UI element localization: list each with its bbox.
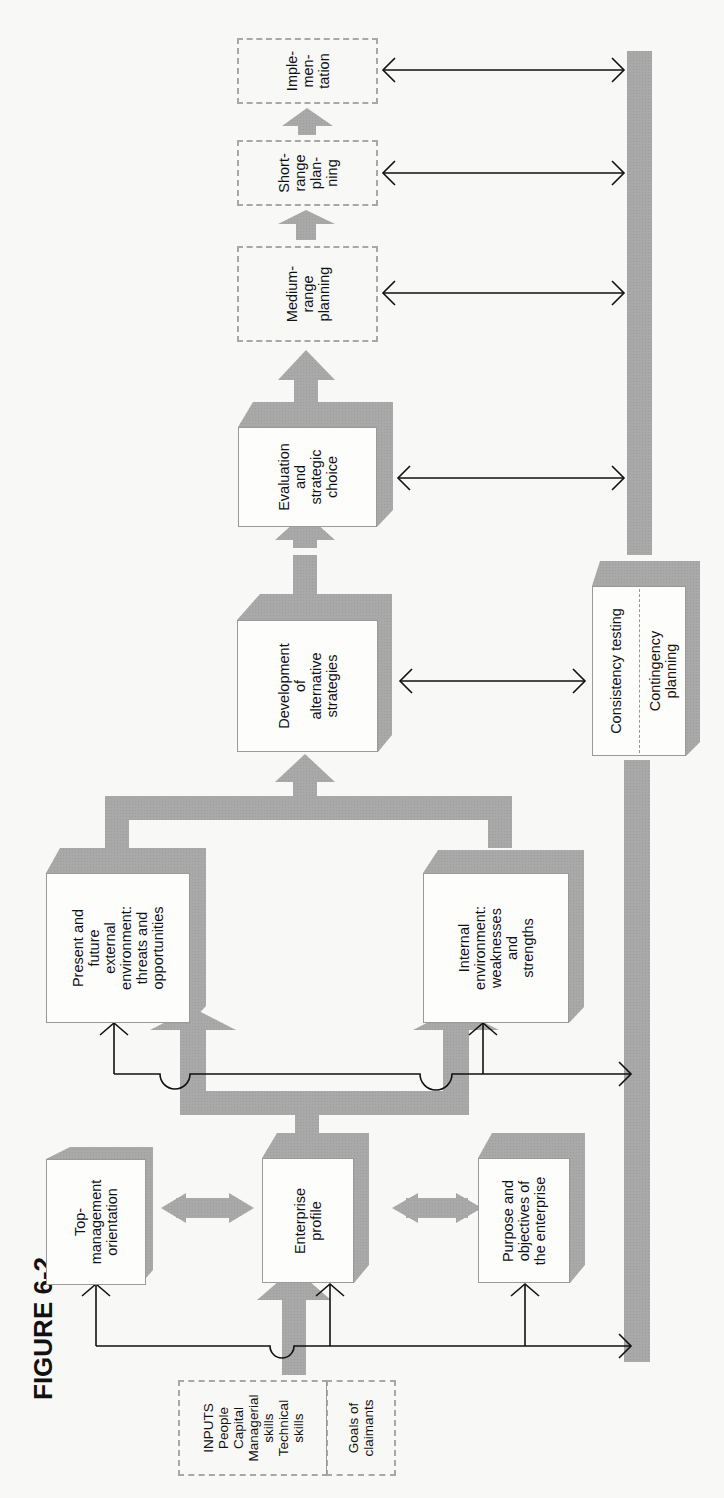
inputs-resources-label: INPUTS People Capital Managerial skills … — [201, 1395, 306, 1462]
node-label: Present and future external environment:… — [70, 906, 166, 990]
node-alternative-strategies: Development of alternative strategies — [237, 620, 378, 752]
node-consistency-contingency: Consistency testing Contingency planning — [592, 586, 686, 756]
node-label: Top- management orientation — [72, 1180, 120, 1265]
node-label: Medium- range planning — [284, 266, 332, 322]
node-evaluation-choice: Evaluation and strategic choice — [238, 427, 377, 527]
node-implementation: Imple- men- tation — [237, 38, 378, 104]
goals-box: Goals of claimants — [326, 1380, 396, 1476]
consistency-testing-label: Consistency testing — [608, 608, 624, 734]
node-medium-range-planning: Medium- range planning — [237, 246, 378, 342]
feedback-bar-stub-top — [627, 520, 652, 555]
box-shadows — [46, 402, 700, 1283]
node-label: Development of alternative strategies — [276, 643, 340, 728]
node-label: Purpose and objectives of the enterprise — [500, 1176, 548, 1265]
node-label: Evaluation and strategic choice — [276, 443, 340, 511]
node-label: Imple- men- tation — [284, 51, 332, 91]
node-short-range-planning: Short- range plan- ning — [237, 140, 378, 206]
node-label: Enterprise profile — [292, 1187, 324, 1253]
contingency-planning-label: Contingency planning — [647, 631, 679, 712]
inputs-box: INPUTS People Capital Managerial skills … — [178, 1380, 328, 1476]
goals-label: Goals of claimants — [346, 1399, 376, 1456]
feedback-bar-upper — [627, 51, 652, 521]
feedback-bar-stub-bottom — [624, 760, 650, 785]
node-enterprise-profile: Enterprise profile — [262, 1158, 354, 1283]
node-label: Short- range plan- ning — [276, 153, 340, 193]
diagram-figure-6-2: FIGURE 6-2 INPUTS People Capital Manager… — [0, 0, 724, 1498]
node-internal-environment: Internal environment: weaknesses and str… — [423, 873, 569, 1023]
node-purpose-objectives: Purpose and objectives of the enterprise — [478, 1158, 570, 1283]
node-external-environment: Present and future external environment:… — [46, 873, 190, 1023]
node-top-management: Top- management orientation — [46, 1159, 146, 1285]
node-label: Internal environment: weaknesses and str… — [456, 906, 536, 990]
